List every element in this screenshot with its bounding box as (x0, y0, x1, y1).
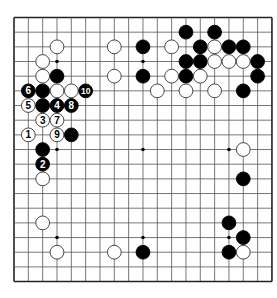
white-stone (236, 55, 250, 69)
black-stone (179, 69, 193, 83)
black-stone (222, 245, 236, 259)
white-stone: 5 (21, 99, 35, 113)
black-stone (179, 55, 193, 69)
star-point (227, 148, 231, 152)
white-stone (208, 40, 222, 54)
star-point (55, 60, 59, 64)
move-number-label: 1 (26, 129, 32, 140)
white-stone: 1 (21, 128, 35, 142)
white-stone (150, 84, 164, 98)
star-point (141, 60, 145, 64)
black-stone (236, 84, 250, 98)
white-stone: 3 (36, 113, 50, 127)
white-stone (50, 245, 64, 259)
star-point (141, 236, 145, 240)
move-number-label: 7 (54, 115, 60, 126)
white-stone (208, 84, 222, 98)
white-stone (179, 84, 193, 98)
black-stone (36, 99, 50, 113)
move-number-label: 4 (54, 100, 60, 111)
white-stone (107, 69, 121, 83)
white-stone (236, 143, 250, 157)
star-point (55, 236, 59, 240)
white-stone (165, 69, 179, 83)
white-stone (208, 55, 222, 69)
white-stone: 9 (50, 128, 64, 142)
go-board-svg: 61054837192 (0, 0, 277, 298)
black-stone: 4 (50, 99, 64, 113)
white-stone (36, 216, 50, 230)
white-stone: 7 (50, 113, 64, 127)
black-stone (222, 40, 236, 54)
black-stone (136, 69, 150, 83)
white-stone (64, 84, 78, 98)
white-stone (193, 69, 207, 83)
move-number-label: 2 (40, 159, 46, 170)
star-point (141, 148, 145, 152)
black-stone (179, 25, 193, 39)
star-point (227, 236, 231, 240)
black-stone: 2 (36, 157, 50, 171)
black-stone (193, 40, 207, 54)
white-stone (107, 245, 121, 259)
black-stone (208, 25, 222, 39)
move-number-label: 8 (69, 100, 75, 111)
white-stone (50, 84, 64, 98)
black-stone (251, 55, 265, 69)
black-stone: 8 (64, 99, 78, 113)
black-stone (236, 40, 250, 54)
black-stone (251, 69, 265, 83)
white-stone (36, 69, 50, 83)
white-stone (165, 40, 179, 54)
move-number-label: 3 (40, 115, 46, 126)
move-number-label: 5 (26, 100, 32, 111)
white-stone (36, 55, 50, 69)
star-point (55, 148, 59, 152)
black-stone (222, 216, 236, 230)
white-stone (107, 40, 121, 54)
white-stone (50, 40, 64, 54)
black-stone (136, 40, 150, 54)
white-stone (222, 55, 236, 69)
black-stone (50, 69, 64, 83)
black-stone (36, 143, 50, 157)
move-number-label: 6 (26, 85, 32, 96)
move-number-label: 9 (54, 129, 60, 140)
black-stone: 6 (21, 84, 35, 98)
black-stone (36, 84, 50, 98)
black-stone (193, 55, 207, 69)
black-stone (236, 172, 250, 186)
black-stone (64, 128, 78, 142)
black-stone: 10 (79, 84, 93, 98)
black-stone (136, 245, 150, 259)
move-number-label: 10 (81, 86, 91, 96)
white-stone (236, 245, 250, 259)
black-stone (236, 231, 250, 245)
go-board: 61054837192 (0, 0, 277, 298)
white-stone (36, 172, 50, 186)
